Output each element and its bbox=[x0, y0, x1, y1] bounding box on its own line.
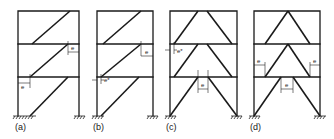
panel-label-d: (d) bbox=[250, 122, 261, 132]
panel-a: e e (a) bbox=[13, 11, 85, 132]
eccentricity-label: e bbox=[313, 58, 317, 64]
fixed-support-icon bbox=[92, 116, 104, 119]
eccentricity-label: e bbox=[257, 58, 261, 64]
panel-label-c: (c) bbox=[166, 122, 177, 132]
eccentricity-star-label: e* bbox=[177, 48, 183, 54]
fixed-support-icon bbox=[13, 116, 36, 119]
panel-label-b: (b) bbox=[93, 122, 104, 132]
braced-frames-diagram: e e (a) e e* (b) bbox=[0, 0, 334, 139]
eccentricity-label: e bbox=[145, 49, 149, 55]
panel-b: e e* (b) bbox=[92, 11, 158, 132]
eccentricity-label: e bbox=[21, 84, 25, 90]
eccentricity-label: e bbox=[285, 82, 289, 88]
eccentricity-star-label: e* bbox=[104, 77, 110, 83]
eccentricity-label: e bbox=[201, 82, 205, 88]
eccentricity-label: e bbox=[71, 45, 75, 51]
panel-label-a: (a) bbox=[15, 122, 26, 132]
panel-c: e* e (c) bbox=[165, 11, 242, 132]
panel-d: e e e (d) bbox=[249, 11, 326, 132]
